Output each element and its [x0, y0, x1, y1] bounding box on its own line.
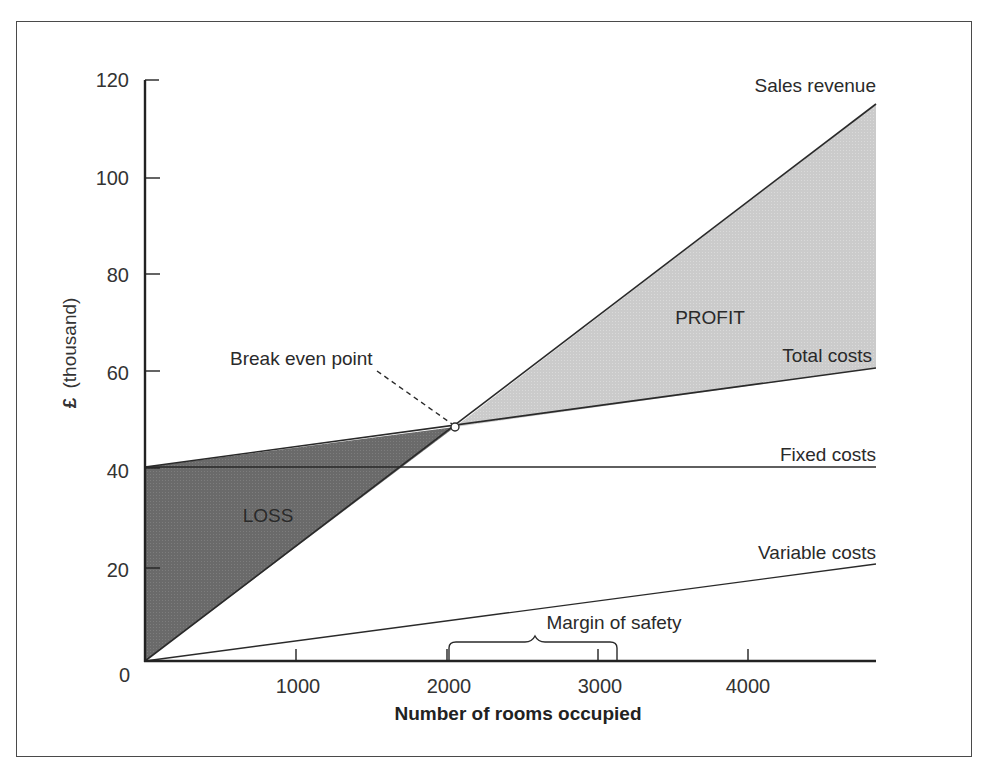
label-fixed-costs: Fixed costs	[780, 444, 876, 465]
label-variable-costs: Variable costs	[758, 542, 876, 563]
x-tick-label: 2000	[427, 675, 472, 697]
y-tick-label: 100	[96, 167, 129, 189]
break-even-leader	[377, 371, 452, 424]
label-loss: LOSS	[243, 505, 294, 526]
label-break-even: Break even point	[230, 348, 373, 369]
y-tick-label: 20	[107, 559, 129, 581]
y-axis-title: £ (thousand)	[59, 298, 80, 409]
y-tick-label: 60	[107, 362, 129, 384]
x-tick-label: 3000	[578, 675, 623, 697]
break-even-marker	[451, 423, 459, 431]
x-ticks	[296, 649, 748, 661]
y-tick-label: 120	[96, 69, 129, 91]
x-tick-label: 1000	[276, 675, 321, 697]
break-even-chart: 120 100 80 60 40 20 0 1000 2000 3000 400…	[0, 0, 991, 781]
label-sales-revenue: Sales revenue	[755, 75, 876, 96]
pound-symbol: £	[59, 397, 80, 408]
x-axis-title: Number of rooms occupied	[394, 703, 641, 724]
y-axis-unit: (thousand)	[59, 298, 80, 389]
label-total-costs: Total costs	[782, 345, 872, 366]
variable-costs-line	[145, 564, 876, 661]
label-profit: PROFIT	[675, 307, 745, 328]
label-margin-of-safety: Margin of safety	[546, 612, 682, 633]
svg-text:£ (thousand): £ (thousand)	[59, 298, 80, 409]
y-tick-label: 80	[107, 264, 129, 286]
x-tick-label: 4000	[726, 675, 771, 697]
margin-of-safety-brace	[449, 636, 617, 660]
y-tick-label: 0	[119, 664, 130, 686]
y-tick-label: 40	[107, 460, 129, 482]
